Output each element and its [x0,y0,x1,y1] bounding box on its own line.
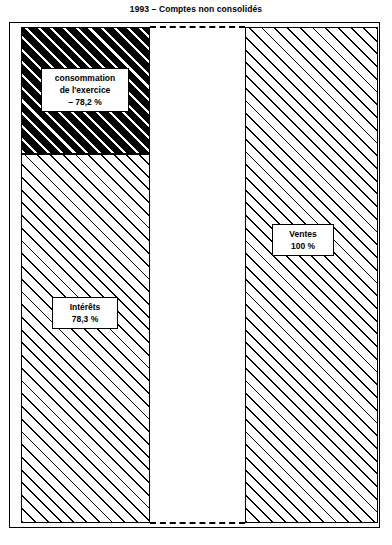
label-interets-value: 78,3 % [57,313,113,325]
label-consommation-value: – 78,2 % [46,96,124,108]
label-consommation-line1: consommation [46,72,124,84]
chart-title: 1993 – Comptes non consolidés [0,4,392,15]
label-consommation-line2: de l'exercice [46,84,124,96]
chart-root: 1993 – Comptes non consolidés consommati… [0,0,392,545]
label-interets: Intérêts 78,3 % [52,297,118,329]
connector-line-top [150,26,245,28]
label-ventes-line1: Ventes [277,228,329,240]
label-ventes-value: 100 % [277,240,329,252]
bar-segment-interets [21,154,150,523]
label-interets-line1: Intérêts [57,301,113,313]
label-consommation: consommation de l'exercice – 78,2 % [41,68,129,112]
connector-line-bottom [150,522,245,524]
bar-segment-ventes [245,27,378,523]
label-ventes: Ventes 100 % [272,224,334,256]
